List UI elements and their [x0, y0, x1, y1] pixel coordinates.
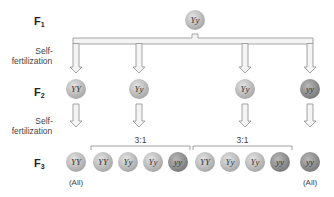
genotype-label: yy — [275, 157, 284, 167]
down-arrow-icon — [239, 44, 251, 74]
genotype-label: Yy — [149, 157, 158, 167]
f3-label: F3 — [34, 157, 45, 170]
plant-Yy: Yy — [143, 152, 163, 172]
down-arrow-icon — [239, 104, 251, 127]
genotype-label: YY — [71, 157, 82, 167]
f1-label: F1 — [34, 15, 45, 28]
plant-yy: yy — [168, 152, 188, 172]
plant-Yy: Yy — [118, 152, 138, 172]
down-arrow-icon — [133, 104, 145, 127]
genotype-label: yy — [305, 84, 314, 94]
plant-YY: YY — [195, 152, 215, 172]
genotype-label: Yy — [241, 84, 250, 94]
f2-to-f3-arrows — [70, 104, 316, 127]
genotype-label: yy — [305, 157, 314, 167]
ratio-label: 3:1 — [135, 135, 147, 145]
bracket — [91, 146, 190, 150]
plant-Yy: Yy — [220, 152, 240, 172]
genotype-label: Yy — [191, 15, 200, 25]
genotype-label: YY — [98, 157, 109, 167]
plant-Yy: Yy — [129, 79, 149, 99]
plant-yy: yy — [300, 152, 320, 172]
down-arrow-icon — [133, 44, 145, 74]
plant-yy: yy — [270, 152, 290, 172]
plant-Yy: Yy — [235, 79, 255, 99]
genotype-label: yy — [173, 157, 182, 167]
plant-YY: YY — [93, 152, 113, 172]
plant-YY: YY — [66, 79, 86, 99]
all-label: (All) — [69, 178, 84, 187]
branching-arrows — [70, 34, 316, 73]
down-arrow-icon — [304, 104, 316, 127]
genotype-label: YY — [71, 84, 82, 94]
genotype-label: Yy — [251, 157, 260, 167]
plant-Yy: Yy — [185, 10, 205, 30]
genotype-label: Yy — [226, 157, 235, 167]
bracket — [193, 146, 292, 150]
plant-YY: YY — [66, 152, 86, 172]
all-label: (All) — [303, 178, 318, 187]
f2-label: F2 — [34, 86, 45, 99]
genotype-label: Yy — [135, 84, 144, 94]
down-arrow-icon — [304, 44, 316, 74]
down-arrow-icon — [70, 44, 82, 74]
down-arrow-icon — [70, 104, 82, 127]
genotype-label: YY — [200, 157, 211, 167]
self-fertilization-label-2: Self-fertilization — [12, 116, 53, 136]
plant-yy: yy — [300, 79, 320, 99]
ratio-label: 3:1 — [237, 135, 249, 145]
branch-bar — [73, 34, 313, 44]
self-fertilization-label-1: Self-fertilization — [12, 46, 53, 66]
genetics-diagram: F1 F2 F3 Self-fertilization Self-fertili… — [0, 0, 334, 197]
genotype-label: Yy — [124, 157, 133, 167]
plant-Yy: Yy — [245, 152, 265, 172]
